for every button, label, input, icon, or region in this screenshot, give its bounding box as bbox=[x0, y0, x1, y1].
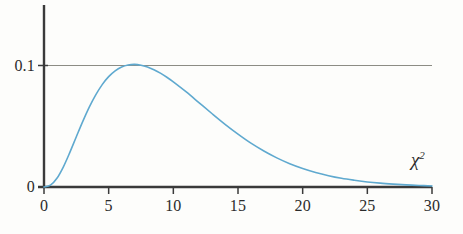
data-curve-group bbox=[44, 64, 432, 187]
y-axis-tick-label: 0.1 bbox=[14, 58, 35, 74]
x-axis-tick-label: 10 bbox=[165, 198, 181, 214]
tick-mark-group bbox=[38, 66, 432, 195]
chi-square-distribution-figure: 051015202530 00.1 χ2 bbox=[0, 0, 463, 234]
x-axis-label-exponent: 2 bbox=[419, 149, 425, 161]
x-axis-tick-label: 15 bbox=[230, 198, 246, 214]
x-axis-tick-label: 5 bbox=[105, 198, 113, 214]
data-curve bbox=[44, 64, 432, 187]
axis-group bbox=[38, 5, 432, 187]
x-axis-tick-label: 20 bbox=[294, 198, 310, 214]
x-axis-tick-label: 25 bbox=[359, 198, 375, 214]
x-axis-tick-label: 0 bbox=[40, 198, 48, 214]
y-axis-tick-label: 0 bbox=[27, 179, 35, 195]
x-axis-tick-label: 30 bbox=[424, 198, 440, 214]
x-axis-label: χ2 bbox=[411, 150, 425, 169]
